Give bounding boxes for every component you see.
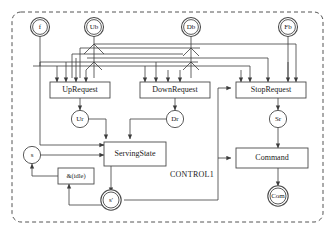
process-box-command[interactable]: Command (236, 148, 308, 168)
input-node-db[interactable]: Db (182, 18, 201, 37)
process-box-downrequest[interactable]: DownRequest (140, 82, 210, 98)
signal-node-sprime[interactable]: s' (101, 190, 121, 210)
wire-idle-to-s (32, 164, 60, 176)
signal-node-ur[interactable]: Ur (71, 110, 88, 127)
wire-ur-to-servingstate (88, 119, 106, 139)
diagram-canvas: UpRequest DownRequest StopRequest Servin… (0, 0, 335, 234)
wire-cross-ub-b (94, 44, 104, 54)
signal-node-sr[interactable]: Sr (269, 110, 286, 127)
input-node-fb[interactable]: Fb (279, 18, 298, 37)
process-box-idle[interactable]: &(idle) (58, 168, 94, 184)
process-box-stoprequest[interactable]: StopRequest (236, 82, 306, 98)
process-box-servingstate[interactable]: ServingState (104, 142, 166, 166)
signal-node-dr[interactable]: Dr (166, 110, 183, 127)
signal-node-com[interactable]: Com (268, 186, 288, 206)
process-box-uprequest[interactable]: UpRequest (50, 82, 110, 98)
control-block-diagram: UpRequest DownRequest StopRequest Servin… (0, 0, 335, 234)
region-label-control1: CONTROL1 (170, 170, 214, 179)
wire-dr-to-servingstate (130, 119, 166, 139)
signal-node-s[interactable]: s (23, 146, 40, 163)
input-node-ub[interactable]: Ub (85, 18, 104, 37)
wire-cross-db-a (183, 48, 191, 56)
input-node-f[interactable]: f (31, 18, 50, 37)
wire-cross-ub-a (84, 44, 94, 54)
wire-cross-db-b (191, 48, 199, 56)
